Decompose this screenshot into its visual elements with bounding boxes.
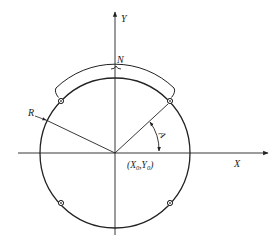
marker-upper-left xyxy=(58,98,63,103)
x-axis-label: X xyxy=(233,158,241,169)
radius-line xyxy=(46,120,115,153)
marker-lower-left xyxy=(58,200,63,205)
radius-label: R xyxy=(27,107,34,118)
angle-ray xyxy=(115,104,168,153)
angle-arc xyxy=(150,122,159,151)
radius-leader xyxy=(35,116,46,120)
arc-band-label: N xyxy=(116,54,125,65)
bolt-circle-diagram: Y X N R A (X0,Y0) xyxy=(0,0,280,248)
center-label: (X0,Y0) xyxy=(127,160,153,171)
arc-band-brace-tip xyxy=(111,66,121,69)
marker-lower-right xyxy=(167,200,172,205)
y-axis-label: Y xyxy=(121,13,128,24)
marker-upper-right xyxy=(167,98,172,103)
